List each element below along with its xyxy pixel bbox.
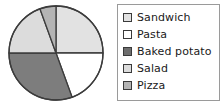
pie-chart-svg [6,3,106,103]
legend-swatch-salad [123,64,132,73]
legend-item[interactable]: Sandwich [123,9,216,26]
chart-legend: Sandwich Pasta Baked potato Salad Pizza [117,4,220,101]
legend-swatch-pizza [123,81,132,90]
legend-swatch-sandwich [123,13,132,22]
pie-chart-plot-area [6,3,106,103]
legend-item[interactable]: Salad [123,60,216,77]
pie-slice-sandwich[interactable] [56,6,103,53]
legend-label-salad: Salad [137,63,168,74]
legend-label-baked-potato: Baked potato [137,46,212,57]
legend-swatch-pasta [123,30,132,39]
legend-label-sandwich: Sandwich [137,12,191,23]
legend-item[interactable]: Pizza [123,77,216,94]
legend-item[interactable]: Baked potato [123,43,216,60]
pie-chart-figure: Sandwich Pasta Baked potato Salad Pizza [0,0,224,105]
legend-item[interactable]: Pasta [123,26,216,43]
legend-label-pizza: Pizza [137,80,165,91]
legend-label-pasta: Pasta [137,29,167,40]
legend-swatch-baked-potato [123,47,132,56]
